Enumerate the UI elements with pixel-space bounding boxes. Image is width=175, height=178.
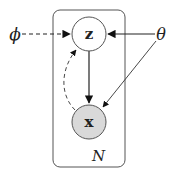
edge-x-z-inference (64, 50, 76, 110)
plate-label: N (91, 147, 106, 165)
node-x-label: x (85, 113, 95, 131)
node-phi-label: ϕ (9, 24, 21, 44)
edge-theta-x (103, 41, 156, 107)
graphical-model-diagram: N z x ϕ θ (0, 0, 175, 178)
node-z-label: z (85, 25, 94, 43)
node-theta-label: θ (156, 25, 166, 44)
